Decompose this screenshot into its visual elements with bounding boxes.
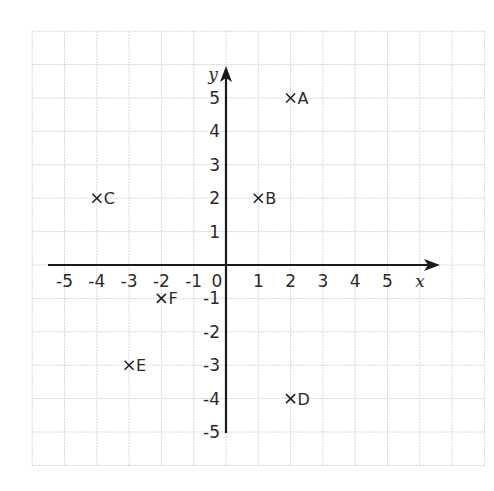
point-label: B <box>265 189 276 208</box>
y-tick-label: -1 <box>203 288 220 308</box>
x-axis-title: x <box>415 271 425 291</box>
y-tick-label: -3 <box>203 355 220 375</box>
x-tick-label: 5 <box>382 271 393 291</box>
point-label: F <box>168 289 177 308</box>
x-tick-label: -2 <box>153 271 170 291</box>
point-label: D <box>298 390 310 409</box>
x-tick-label: 1 <box>253 271 264 291</box>
x-tick-label: 3 <box>317 271 328 291</box>
y-tick-label: 1 <box>209 222 220 242</box>
grid <box>32 31 484 465</box>
x-tick-label: -5 <box>56 271 73 291</box>
y-tick-label: -2 <box>203 322 220 342</box>
y-tick-label: 3 <box>209 155 220 175</box>
point-label: E <box>136 356 146 375</box>
data-point-e: E <box>125 356 147 375</box>
data-point-b: B <box>254 189 276 208</box>
data-points: ABCDEF <box>92 89 310 409</box>
coordinate-plane: xy -5-4-3-2-101234554321-1-2-3-4-5 ABCDE… <box>0 0 494 491</box>
y-tick-label: -4 <box>203 389 220 409</box>
x-tick-label: -4 <box>88 271 105 291</box>
y-tick-label: 5 <box>209 88 220 108</box>
x-tick-label: -1 <box>185 271 202 291</box>
x-tick-label: 2 <box>285 271 296 291</box>
y-tick-label: 2 <box>209 188 220 208</box>
data-point-c: C <box>92 189 115 208</box>
y-tick-label: -5 <box>203 422 220 442</box>
y-axis-title: y <box>207 64 218 84</box>
x-tick-label: 4 <box>350 271 361 291</box>
data-point-a: A <box>286 89 309 108</box>
point-label: C <box>104 189 115 208</box>
axes: xy <box>48 64 440 433</box>
data-point-d: D <box>286 390 310 409</box>
point-label: A <box>298 89 309 108</box>
x-tick-label: -3 <box>121 271 138 291</box>
y-tick-label: 4 <box>209 121 220 141</box>
